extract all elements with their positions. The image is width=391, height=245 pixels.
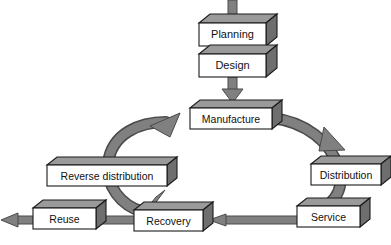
arrow-service-to-recovery bbox=[209, 214, 299, 226]
node-design[interactable] bbox=[199, 45, 277, 77]
node-service[interactable] bbox=[297, 198, 370, 227]
node-planning[interactable] bbox=[199, 14, 277, 46]
diagram-graphics: .face{fill:#ffffff;stroke:#1a1a1a;stroke… bbox=[0, 0, 391, 245]
arrow-reuse-output bbox=[1, 213, 34, 227]
diagram-canvas: .face{fill:#ffffff;stroke:#1a1a1a;stroke… bbox=[0, 0, 391, 245]
node-manufacture[interactable] bbox=[190, 100, 282, 129]
node-distribution[interactable] bbox=[311, 156, 391, 185]
node-reuse[interactable] bbox=[33, 200, 106, 229]
node-reverse-distribution[interactable] bbox=[47, 157, 177, 186]
arrow-design-to-manufacture bbox=[222, 77, 243, 103]
arrowhead-to-distribution bbox=[319, 127, 345, 151]
node-recovery[interactable] bbox=[134, 202, 213, 231]
